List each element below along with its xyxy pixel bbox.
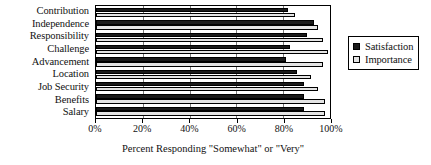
- x-axis-tick-label: 40%: [180, 123, 198, 134]
- bar-group: [96, 44, 330, 55]
- x-axis-tick-label: 80%: [275, 123, 293, 134]
- bar-importance: [96, 38, 323, 42]
- bar-group: [96, 69, 330, 80]
- bar-group: [96, 7, 330, 18]
- category-label: Independence: [0, 18, 93, 31]
- bar-satisfaction: [96, 8, 288, 12]
- bar-importance: [96, 75, 311, 79]
- bar-group: [96, 19, 330, 30]
- legend-swatch-satisfaction-icon: [353, 43, 360, 50]
- legend-label: Importance: [365, 54, 412, 65]
- legend-label: Satisfaction: [365, 41, 413, 52]
- bar-importance: [96, 87, 318, 91]
- bar-group: [96, 81, 330, 92]
- chart-legend: SatisfactionImportance: [348, 36, 419, 70]
- bar-importance: [96, 99, 325, 103]
- bar-satisfaction: [96, 33, 307, 37]
- bar-satisfaction: [96, 94, 304, 98]
- x-axis-tick-label: 0%: [88, 123, 101, 134]
- bar-importance: [96, 111, 325, 115]
- bar-importance: [96, 50, 328, 54]
- category-label: Benefits: [0, 94, 93, 107]
- bar-group: [96, 106, 330, 117]
- bar-satisfaction: [96, 107, 304, 111]
- category-label: Responsibility: [0, 30, 93, 43]
- category-label: Location: [0, 68, 93, 81]
- category-label: Contribution: [0, 5, 93, 18]
- plot-area: [95, 5, 331, 119]
- bar-group: [96, 93, 330, 104]
- bar-satisfaction: [96, 45, 290, 49]
- bar-satisfaction: [96, 57, 286, 61]
- bar-satisfaction: [96, 70, 297, 74]
- category-label: Challenge: [0, 43, 93, 56]
- x-axis-tick-label: 20%: [133, 123, 151, 134]
- bar-chart: ContributionIndependenceResponsibilityCh…: [0, 0, 431, 165]
- bar-importance: [96, 25, 318, 29]
- bar-satisfaction: [96, 20, 314, 24]
- category-label: Job Security: [0, 81, 93, 94]
- legend-item: Importance: [353, 53, 413, 66]
- category-axis: ContributionIndependenceResponsibilityCh…: [0, 5, 93, 119]
- legend-swatch-importance-icon: [353, 56, 360, 63]
- x-axis-tick-labels: 0%20%40%60%80%100%: [95, 123, 331, 137]
- category-label: Salary: [0, 106, 93, 119]
- bar-importance: [96, 62, 323, 66]
- category-label: Advancement: [0, 56, 93, 69]
- x-axis-tick-label: 60%: [227, 123, 245, 134]
- bar-satisfaction: [96, 82, 304, 86]
- x-axis-title: Percent Responding "Somewhat" or "Very": [95, 143, 331, 154]
- legend-item: Satisfaction: [353, 40, 413, 53]
- x-axis-tick-label: 100%: [319, 123, 342, 134]
- bar-series-container: [96, 6, 330, 118]
- bar-importance: [96, 13, 295, 17]
- bar-group: [96, 56, 330, 67]
- bar-group: [96, 32, 330, 43]
